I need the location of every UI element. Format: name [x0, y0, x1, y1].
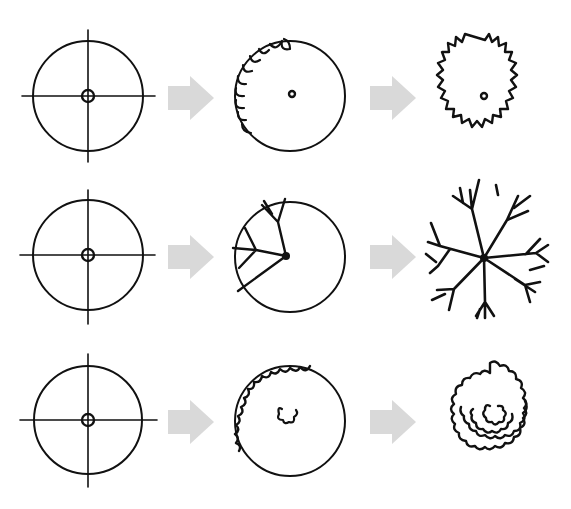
row-3-step-3-cloud-canopy-tree	[451, 362, 527, 450]
row-2-step-1-guide-circle	[20, 190, 155, 324]
row-2-arrow-2	[370, 235, 416, 279]
row-1-step-2-scalloped-circle	[235, 39, 345, 151]
row-1-arrow-1	[168, 76, 214, 120]
row-3-step-1-guide-circle	[20, 354, 157, 487]
row-2-step-2-branch-circle	[233, 199, 345, 312]
row-2-arrow-1	[168, 235, 214, 279]
row-1-step-1-guide-circle	[22, 30, 155, 162]
row-3-arrow-2	[370, 400, 416, 444]
tree-symbol-diagram	[0, 0, 571, 509]
row-2-step-3-branch-tree	[426, 180, 548, 318]
row-1-step-3-jagged-tree	[437, 34, 517, 127]
row-3-arrow-1	[168, 400, 214, 444]
row-1-arrow-2	[370, 76, 416, 120]
row-3-step-2-cloud-edge-circle	[235, 366, 345, 476]
